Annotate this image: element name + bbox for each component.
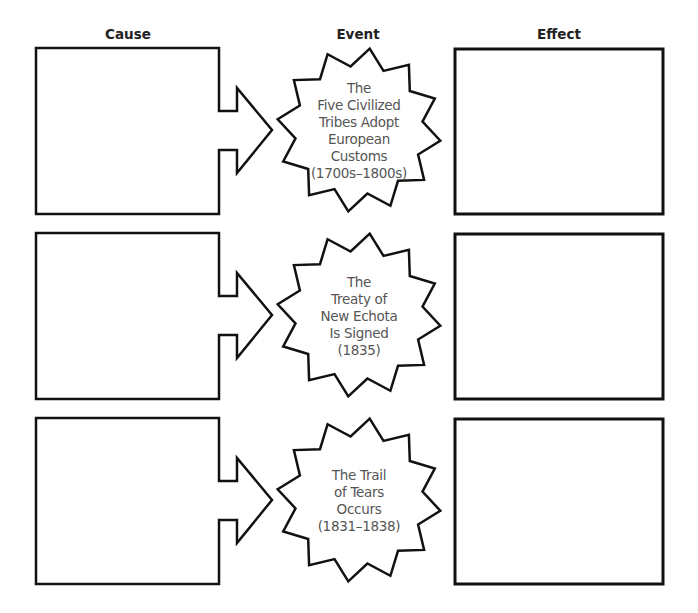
cause-box-2[interactable]: [36, 233, 272, 399]
event-text-line: The: [294, 80, 424, 97]
cause-box-1[interactable]: [36, 48, 272, 214]
event-text-line: Occurs: [294, 501, 424, 518]
event-text-2: TheTreaty ofNew EchotaIs Signed(1835): [294, 274, 424, 359]
event-text-line: (1831–1838): [294, 518, 424, 535]
event-text-line: Treaty of: [294, 291, 424, 308]
event-text-line: (1835): [294, 342, 424, 359]
effect-box-3[interactable]: [455, 419, 663, 584]
event-text-line: Customs: [294, 148, 424, 165]
event-text-line: Tribes Adopt: [294, 114, 424, 131]
effect-box-1[interactable]: [455, 49, 663, 214]
event-text-line: Five Civilized: [294, 97, 424, 114]
event-text-line: (1700s–1800s): [294, 165, 424, 182]
cause-box-3[interactable]: [36, 418, 272, 584]
event-text-line: New Echota: [294, 308, 424, 325]
event-text-1: TheFive CivilizedTribes AdoptEuropeanCus…: [294, 80, 424, 182]
event-text-line: European: [294, 131, 424, 148]
event-text-line: The Trail: [294, 467, 424, 484]
effect-box-2[interactable]: [455, 234, 663, 399]
event-text-line: Is Signed: [294, 325, 424, 342]
event-text-3: The Trailof TearsOccurs(1831–1838): [294, 467, 424, 535]
event-text-line: of Tears: [294, 484, 424, 501]
event-text-line: The: [294, 274, 424, 291]
